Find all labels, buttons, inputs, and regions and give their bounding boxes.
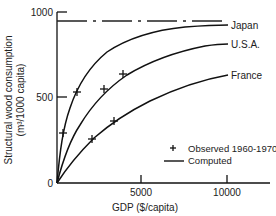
x-tick-label-5000: 5000 [130,187,153,198]
axes [57,12,270,183]
series-label-usa: U.S.A. [231,39,260,50]
y-tick-label-1000: 1000 [31,7,54,18]
x-axis-label: GDP ($/capita) [112,202,178,213]
legend: Observed 1960-1970 Computed [164,143,276,166]
y-axis-label-line2: (m³/1000 capita) [15,64,26,137]
wood-consumption-chart: 1000 500 0 5000 10000 GDP ($/capita) Str… [0,0,276,216]
y-axis-label-line1: Structural wood consumption [3,36,14,165]
series-label-japan: Japan [231,20,258,31]
curve-france [57,75,228,183]
observed-marker-france-1 [88,135,96,143]
y-tick-label-0: 0 [47,178,53,189]
legend-observed-symbol [170,145,176,151]
y-tick-label-500: 500 [36,92,53,103]
legend-computed-label: Computed [188,155,232,166]
legend-observed-label: Observed 1960-1970 [188,143,276,154]
y-axis-label-group: Structural wood consumption (m³/1000 cap… [3,36,26,165]
chart-canvas: 1000 500 0 5000 10000 GDP ($/capita) Str… [0,0,276,216]
observed-marker-japan-1 [59,129,67,137]
series-label-france: France [231,70,263,81]
x-tick-label-10000: 10000 [213,187,241,198]
observed-marker-japan-2 [73,88,81,96]
observed-marker-usa-2 [119,70,127,78]
